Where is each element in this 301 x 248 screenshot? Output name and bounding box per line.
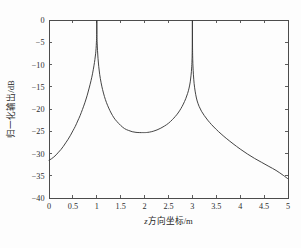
x-tick-label: 2.5 xyxy=(163,202,173,211)
y-axis-title: 归一化输出/dB xyxy=(5,80,16,138)
y-tick-label: −20 xyxy=(32,105,45,114)
x-axis-tick-labels: 00.511.522.533.544.55 xyxy=(47,202,290,211)
axis-frame xyxy=(49,20,288,198)
data-series-line xyxy=(49,20,288,179)
tick-marks xyxy=(49,20,288,198)
y-tick-label: −15 xyxy=(32,83,45,92)
x-tick-label: 3.5 xyxy=(211,202,221,211)
y-axis-tick-labels: 0−5−10−15−20−25−30−35−40 xyxy=(32,16,45,203)
x-tick-label: 3 xyxy=(190,202,194,211)
y-tick-label: −40 xyxy=(32,194,45,203)
x-tick-label: 5 xyxy=(286,202,290,211)
y-tick-label: −35 xyxy=(32,172,45,181)
x-tick-label: 1 xyxy=(95,202,99,211)
x-tick-label: 1.5 xyxy=(116,202,126,211)
x-axis-title: z方向坐标/m xyxy=(143,215,193,226)
y-tick-label: 0 xyxy=(40,16,44,25)
y-tick-label: −30 xyxy=(32,150,45,159)
x-tick-label: 4 xyxy=(238,202,242,211)
figure-container: 00.511.522.533.544.55 0−5−10−15−20−25−30… xyxy=(0,0,301,248)
y-tick-label: −25 xyxy=(32,127,45,136)
x-tick-label: 0 xyxy=(47,202,51,211)
x-tick-label: 0.5 xyxy=(68,202,78,211)
x-tick-label: 2 xyxy=(143,202,147,211)
chart-plot: 00.511.522.533.544.55 0−5−10−15−20−25−30… xyxy=(0,0,301,248)
x-tick-label: 4.5 xyxy=(259,202,269,211)
y-tick-label: −10 xyxy=(32,61,45,70)
normalized-output-curve xyxy=(49,20,288,179)
y-tick-label: −5 xyxy=(36,38,45,47)
